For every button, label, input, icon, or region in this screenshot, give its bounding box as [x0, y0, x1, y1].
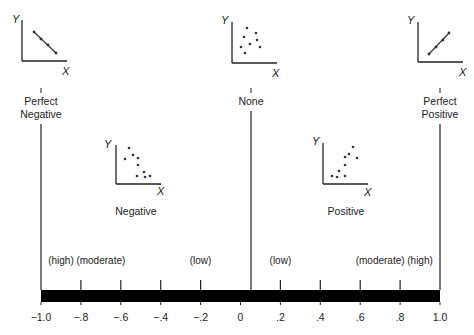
- data-point: [344, 175, 347, 178]
- y-axis-label: Y: [312, 135, 320, 147]
- data-point: [448, 32, 451, 35]
- scale-tick-label: .4: [316, 311, 325, 323]
- data-point: [259, 46, 262, 49]
- data-point: [240, 46, 243, 49]
- scale-tick-label: .2: [276, 311, 285, 323]
- data-point: [137, 164, 140, 167]
- scale-tick-label: 1.0: [433, 311, 448, 323]
- y-axis-label: Y: [221, 14, 229, 26]
- trend-line: [429, 33, 449, 54]
- data-point: [246, 27, 249, 30]
- data-point: [336, 176, 339, 179]
- strength-label: (moderate): [76, 255, 125, 266]
- mini-plot-negative: Y X: [104, 138, 165, 197]
- y-axis-label: Y: [407, 14, 415, 26]
- x-axis-label: X: [61, 65, 70, 77]
- data-point: [144, 176, 147, 179]
- data-point: [124, 158, 127, 161]
- scale-tick-label: .8: [396, 311, 405, 323]
- x-axis-label: X: [271, 67, 280, 79]
- data-point: [55, 52, 58, 55]
- category-label-perfect-negative-line1: Perfect: [24, 95, 57, 107]
- data-point: [435, 46, 438, 49]
- mini-plot-perfect-positive: Y X: [407, 14, 467, 78]
- scale-tick-label: −.8: [73, 311, 88, 323]
- category-label-perfect-negative-line2: Negative: [20, 108, 62, 120]
- data-point: [344, 164, 347, 167]
- data-point: [249, 43, 252, 46]
- data-point: [132, 154, 135, 157]
- data-point: [442, 39, 445, 42]
- strength-label: (low): [270, 255, 292, 266]
- data-point: [33, 31, 36, 34]
- data-point: [356, 157, 359, 160]
- data-point: [244, 52, 247, 55]
- category-label-negative: Negative: [115, 205, 157, 217]
- y-axis-label: Y: [12, 13, 20, 25]
- strength-label: (high): [48, 255, 74, 266]
- scale-tick-label: −.4: [153, 311, 168, 323]
- x-axis-label: X: [458, 66, 467, 78]
- data-point: [47, 44, 50, 47]
- scale-tick-label: 0: [238, 311, 244, 323]
- strength-label: (high): [407, 255, 433, 266]
- data-point: [352, 146, 355, 149]
- strength-labels: (high)(moderate)(low)(low)(moderate)(hig…: [48, 255, 433, 266]
- data-point: [331, 175, 334, 178]
- category-label-perfect-positive-line1: Perfect: [423, 95, 456, 107]
- scale-tick-label: −.6: [113, 311, 128, 323]
- strength-label: (moderate): [356, 255, 405, 266]
- data-point: [149, 175, 152, 178]
- x-axis-label: X: [363, 186, 372, 198]
- data-point: [136, 175, 139, 178]
- data-point: [256, 39, 259, 42]
- mini-plot-none: Y X: [221, 14, 280, 79]
- data-point: [338, 170, 341, 173]
- data-point: [344, 156, 347, 159]
- y-axis-label: Y: [104, 138, 112, 150]
- data-point: [128, 147, 131, 150]
- x-axis-label: X: [156, 185, 165, 197]
- scale-tick-label: −.2: [193, 311, 208, 323]
- data-point: [137, 157, 140, 160]
- scale-tick-label: −1.0: [31, 311, 52, 323]
- data-point: [143, 171, 146, 174]
- correlation-scale-diagram: Y X Y X Y X Y: [0, 0, 474, 335]
- mini-plot-perfect-negative: Y X: [12, 13, 70, 77]
- category-label-none: None: [238, 95, 263, 107]
- strength-label: (low): [190, 255, 212, 266]
- data-point: [255, 32, 258, 35]
- correlation-scale-bar: [41, 290, 440, 302]
- data-point: [428, 53, 431, 56]
- category-label-perfect-positive-line2: Positive: [422, 108, 459, 120]
- mini-plot-positive: Y X: [312, 135, 372, 198]
- category-label-positive: Positive: [328, 205, 365, 217]
- data-point: [348, 153, 351, 156]
- scale-tick-labels: −1.0−.8−.6−.4−.20.2.4.6.81.0: [31, 311, 448, 323]
- data-point: [40, 38, 43, 41]
- data-point: [243, 36, 246, 39]
- scale-tick-label: .6: [356, 311, 365, 323]
- trend-line: [34, 32, 56, 53]
